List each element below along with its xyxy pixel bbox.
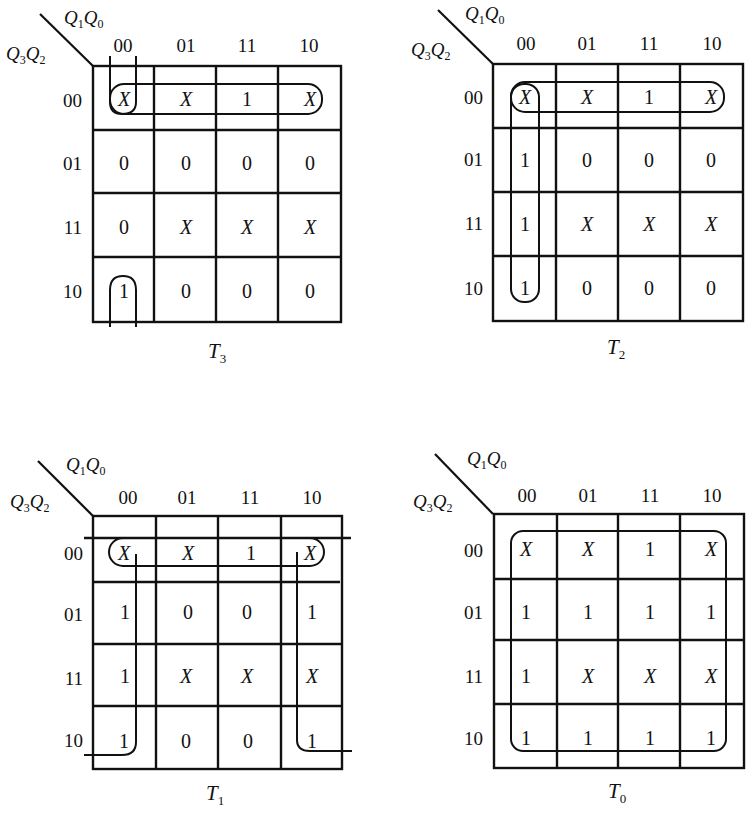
cell: 1 <box>120 601 130 623</box>
cell: X <box>240 665 254 687</box>
cell: 1 <box>242 88 252 110</box>
col-header: 00 <box>517 33 536 54</box>
cell: 1 <box>120 665 130 687</box>
row-header: 11 <box>465 213 483 234</box>
kmap-t3: Q1Q0 Q3Q2 00 01 11 10 00 01 11 10 X <box>0 0 375 400</box>
cell: X <box>181 542 195 564</box>
row-header: 01 <box>63 153 82 174</box>
col-header: 11 <box>241 487 259 508</box>
cell: X <box>305 665 319 687</box>
cell: 0 <box>582 149 592 171</box>
cell: 0 <box>119 216 129 238</box>
cell: 0 <box>706 149 716 171</box>
col-header: 01 <box>578 33 597 54</box>
cell: 0 <box>644 149 654 171</box>
row-var-label: Q3Q2 <box>10 491 49 515</box>
col-var-label: Q1Q0 <box>465 3 504 27</box>
cell: 1 <box>706 727 716 749</box>
kmap-title: T1 <box>206 781 224 808</box>
cell: X <box>179 88 193 110</box>
kmap-t0-svg: Q1Q0 Q3Q2 00 01 11 10 00 01 11 10 X X 1 … <box>375 400 747 816</box>
col-var-label: Q1Q0 <box>64 7 103 31</box>
cell: 0 <box>706 277 716 299</box>
col-header: 11 <box>238 35 256 56</box>
cell: 1 <box>520 149 530 171</box>
cell: X <box>581 665 595 687</box>
col-header: 00 <box>114 35 133 56</box>
cell: 0 <box>243 730 253 752</box>
group-row-00 <box>109 538 324 566</box>
kmap-t1-svg: Q1Q0 Q3Q2 00 01 11 10 00 01 11 10 X X 1 <box>0 400 375 816</box>
cell: 1 <box>119 730 129 752</box>
cell: 1 <box>644 86 654 108</box>
cell: 0 <box>119 152 129 174</box>
col-header: 01 <box>178 487 197 508</box>
kmap-t1: Q1Q0 Q3Q2 00 01 11 10 00 01 11 10 X X 1 <box>0 400 375 816</box>
row-header: 10 <box>464 728 483 749</box>
col-header: 00 <box>518 485 537 506</box>
kmap-t3-svg: Q1Q0 Q3Q2 00 01 11 10 00 01 11 10 X <box>0 0 375 400</box>
cell: X <box>240 216 254 238</box>
col-header: 01 <box>579 485 598 506</box>
cell: 1 <box>645 727 655 749</box>
cell: X <box>580 86 594 108</box>
row-header: 10 <box>464 278 483 299</box>
row-header: 00 <box>464 540 483 561</box>
cell: X <box>580 213 594 235</box>
cell: X <box>643 665 657 687</box>
cell: X <box>303 542 317 564</box>
cell: 1 <box>645 601 655 623</box>
row-var-label: Q3Q2 <box>6 43 45 67</box>
cell: 0 <box>181 280 191 302</box>
kmap-title: T2 <box>607 335 625 362</box>
cell: 1 <box>583 727 593 749</box>
cell: X <box>303 88 317 110</box>
row-header: 10 <box>64 730 83 751</box>
cell: X <box>179 665 193 687</box>
cell: X <box>704 213 718 235</box>
cell: X <box>518 86 532 108</box>
col-header: 01 <box>177 35 196 56</box>
cell: X <box>642 213 656 235</box>
col-var-label: Q1Q0 <box>467 448 506 472</box>
row-var-label: Q3Q2 <box>413 491 452 515</box>
row-header: 11 <box>465 666 483 687</box>
cell: X <box>303 216 317 238</box>
cell: 1 <box>521 727 531 749</box>
col-header: 10 <box>300 35 319 56</box>
cell: 0 <box>242 601 252 623</box>
cell: 0 <box>181 152 191 174</box>
row-header: 01 <box>464 602 483 623</box>
cell: X <box>581 538 595 560</box>
col-header: 10 <box>703 485 722 506</box>
cell: 0 <box>305 152 315 174</box>
cell: 0 <box>183 601 193 623</box>
row-header: 11 <box>64 217 82 238</box>
row-header: 11 <box>65 668 83 689</box>
cell: 0 <box>582 277 592 299</box>
cell: 1 <box>521 601 531 623</box>
row-var-label: Q3Q2 <box>411 39 450 63</box>
cell: X <box>519 538 533 560</box>
cell: 1 <box>520 213 530 235</box>
row-header: 10 <box>63 281 82 302</box>
cell: 1 <box>645 538 655 560</box>
cell: X <box>704 86 718 108</box>
cell: X <box>179 216 193 238</box>
cell: 1 <box>307 730 317 752</box>
kmap-t2-svg: Q1Q0 Q3Q2 00 01 11 10 00 01 11 10 X X 1 … <box>375 0 747 400</box>
kmap-title: T0 <box>608 779 626 806</box>
cell: 1 <box>119 280 129 302</box>
col-header: 10 <box>303 487 322 508</box>
cell: X <box>704 665 718 687</box>
row-header: 01 <box>464 149 483 170</box>
col-header: 11 <box>641 485 659 506</box>
cell: 1 <box>521 665 531 687</box>
cell: 0 <box>305 280 315 302</box>
cell: 1 <box>520 277 530 299</box>
col-header: 10 <box>703 33 722 54</box>
kmap-t2: Q1Q0 Q3Q2 00 01 11 10 00 01 11 10 X X 1 … <box>375 0 747 400</box>
cell: 0 <box>644 277 654 299</box>
cell: X <box>117 542 131 564</box>
cell: X <box>117 88 131 110</box>
